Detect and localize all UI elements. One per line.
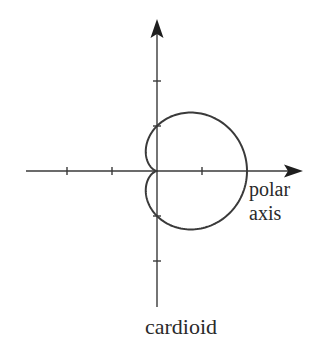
cardioid-diagram: polar axis cardioid	[0, 0, 318, 353]
polar-axis-label-line1: polar	[249, 178, 290, 201]
diagram-caption: cardioid	[145, 314, 217, 339]
polar-axis-label-line2: axis	[249, 202, 281, 224]
